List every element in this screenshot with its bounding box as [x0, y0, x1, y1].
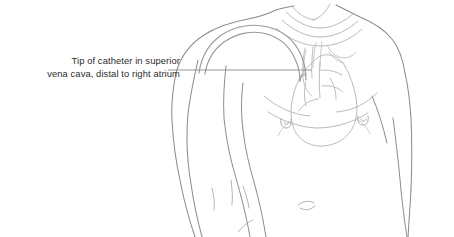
annotation-line-1: Tip of catheter in superior: [14, 54, 180, 67]
catheter-tube: [199, 25, 306, 81]
heart: [291, 55, 357, 146]
left-arm: [172, 60, 202, 237]
catheter-tip-annotation: Tip of catheter in superior vena cava, d…: [14, 54, 180, 80]
neck-clavicle: [276, 4, 362, 46]
abdominal-contours: [212, 180, 253, 232]
anatomy-illustration: [0, 0, 454, 237]
annotation-line-2: vena cava, distal to right atrium: [14, 67, 180, 80]
left-torso-contour: [224, 66, 266, 237]
navel: [298, 201, 315, 209]
catheter-placement-figure: Tip of catheter in superior vena cava, d…: [0, 0, 454, 237]
left-nipple: [281, 119, 292, 128]
right-arm: [372, 96, 407, 237]
